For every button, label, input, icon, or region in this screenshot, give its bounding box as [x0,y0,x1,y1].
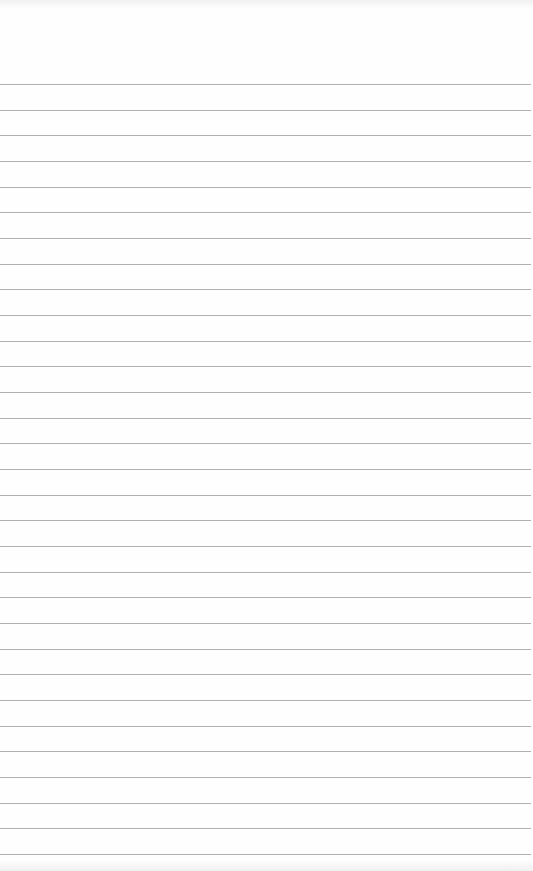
ruled-line [0,366,531,367]
bottom-edge-shading [0,861,533,871]
ruled-line [0,392,531,393]
ruled-line [0,238,531,239]
ruled-line [0,212,531,213]
ruled-line [0,110,531,111]
ruled-line [0,315,531,316]
ruled-line [0,443,531,444]
ruled-line [0,777,531,778]
ruled-line [0,700,531,701]
ruled-line [0,803,531,804]
ruled-line [0,597,531,598]
lined-paper-sheet [0,0,533,871]
ruled-line [0,161,531,162]
ruled-line [0,572,531,573]
ruled-line [0,84,531,85]
ruled-line [0,289,531,290]
top-edge-shading [0,0,533,8]
ruled-line [0,264,531,265]
ruled-line [0,469,531,470]
ruled-line [0,135,531,136]
ruled-line [0,341,531,342]
ruled-line [0,187,531,188]
ruled-line [0,674,531,675]
ruled-line [0,495,531,496]
ruled-line [0,751,531,752]
ruled-line [0,546,531,547]
ruled-line [0,726,531,727]
ruled-line [0,649,531,650]
ruled-line [0,520,531,521]
ruled-line [0,623,531,624]
ruled-line [0,418,531,419]
ruled-line [0,854,531,855]
ruled-line [0,828,531,829]
